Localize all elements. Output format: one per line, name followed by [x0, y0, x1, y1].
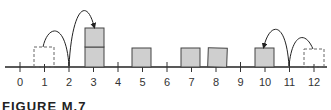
tick-labels: 0 1 2 3 4 5 6 7 8 9 10 11 12	[17, 76, 320, 88]
hop-arc-12-to-11	[289, 38, 313, 66]
block-7	[181, 48, 200, 67]
tick-label-10: 10	[259, 76, 271, 88]
block-8	[208, 48, 228, 68]
hop-arc-1-to-2	[43, 31, 69, 66]
tick-label-0: 0	[17, 76, 23, 88]
tick-label-9: 9	[237, 76, 243, 88]
block-10	[255, 48, 274, 67]
solid-blocks	[85, 28, 274, 67]
number-line-diagram: 0 1 2 3 4 5 6 7 8 9 10 11 12	[0, 0, 331, 110]
tick-label-5: 5	[139, 76, 145, 88]
tick-label-3: 3	[90, 76, 96, 88]
block-3-bottom	[85, 47, 104, 67]
tick-label-2: 2	[66, 76, 72, 88]
block-5	[132, 48, 151, 67]
tick-label-4: 4	[115, 76, 121, 88]
tick-label-1: 1	[41, 76, 47, 88]
block-3-top	[85, 28, 104, 47]
tick-label-12: 12	[308, 76, 320, 88]
tick-label-11: 11	[284, 76, 295, 88]
tick-label-8: 8	[213, 76, 219, 88]
tick-label-7: 7	[188, 76, 194, 88]
figure-caption: FIGURE M.7	[2, 99, 86, 110]
tick-label-6: 6	[164, 76, 170, 88]
